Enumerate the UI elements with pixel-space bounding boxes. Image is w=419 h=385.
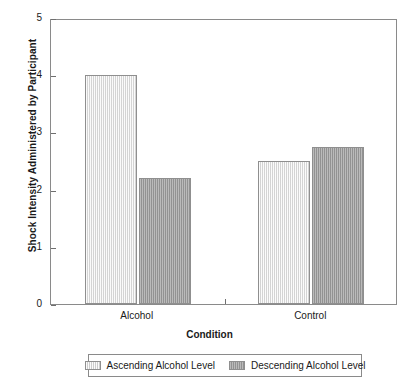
y-axis-tick-mark <box>51 76 56 77</box>
y-axis-tick-mark <box>51 191 56 192</box>
y-axis-tick-mark <box>51 19 56 20</box>
legend-item-ascending: Ascending Alcohol Level <box>85 360 215 371</box>
legend-swatch-descending-icon <box>229 361 245 370</box>
bar-control-descending <box>312 147 364 304</box>
plot-area: 012345 <box>50 19 397 305</box>
x-axis-tick-mark <box>225 299 226 304</box>
y-axis-tick-label: 2 <box>36 184 42 195</box>
y-axis-tick-label: 5 <box>36 12 42 23</box>
y-axis-tick-label: 4 <box>36 69 42 80</box>
y-axis-tick-mark <box>51 248 56 249</box>
y-axis-tick-mark <box>51 305 56 306</box>
x-axis-category-control: Control <box>260 310 360 321</box>
chart-legend: Ascending Alcohol Level Descending Alcoh… <box>88 354 362 377</box>
legend-label-descending: Descending Alcohol Level <box>251 360 366 371</box>
bar-alcohol-descending <box>139 178 191 304</box>
x-axis-title: Condition <box>0 329 419 340</box>
y-axis-tick-label: 0 <box>36 298 42 309</box>
legend-label-ascending: Ascending Alcohol Level <box>107 360 215 371</box>
bar-chart-figure: Shock Intensity Administered by Particip… <box>0 0 419 385</box>
bar-control-ascending <box>258 161 310 304</box>
y-axis-tick-label: 3 <box>36 126 42 137</box>
legend-swatch-ascending-icon <box>85 361 101 370</box>
legend-item-descending: Descending Alcohol Level <box>229 360 366 371</box>
bar-alcohol-ascending <box>85 75 137 304</box>
y-axis-tick-mark <box>51 133 56 134</box>
y-axis-tick-label: 1 <box>36 241 42 252</box>
x-axis-category-alcohol: Alcohol <box>87 310 187 321</box>
